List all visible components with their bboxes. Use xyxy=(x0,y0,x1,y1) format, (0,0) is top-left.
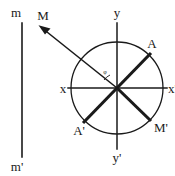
label-axis-x-left: x xyxy=(60,81,67,96)
label-point-a-prime: A' xyxy=(73,123,85,138)
geometric-vector-diagram: m m' y y' x x' A A' M M' φ xyxy=(0,0,175,176)
label-point-a: A xyxy=(147,36,157,51)
vector-m-shaft xyxy=(42,28,117,88)
label-angle: φ xyxy=(103,69,107,75)
label-bar-top: m xyxy=(11,5,21,20)
label-axis-y-top: y xyxy=(114,5,121,20)
diagram-canvas: m m' y y' x x' A A' M M' φ xyxy=(0,0,175,176)
label-vector-m: M xyxy=(37,8,49,23)
label-axis-x-right: x' xyxy=(168,81,175,96)
label-bar-bottom: m' xyxy=(11,159,23,174)
chord-center-mprime xyxy=(117,88,151,121)
label-point-m-prime: M' xyxy=(154,120,168,135)
label-axis-y-bottom: y' xyxy=(113,150,122,165)
